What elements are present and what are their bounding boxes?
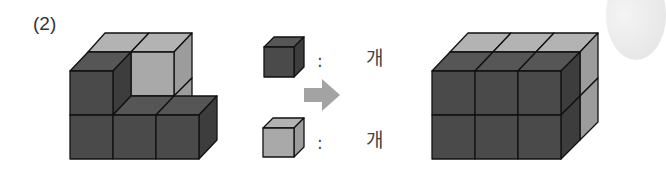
dark-cube-front [518,115,561,159]
light-cube-front [131,52,174,96]
legend-unit-light: 개 [366,125,383,152]
legend-separator: : [317,51,323,71]
initial-figure [70,33,217,159]
dark-cube-front [113,115,156,159]
dark-cube-front [264,47,294,77]
dark-cube-front [70,71,113,115]
dark-cube-front [475,115,518,159]
dark-cube-front [432,71,475,115]
legend-light-cube [263,118,304,157]
legend-unit-dark: 개 [366,43,383,70]
light-cube-front [263,128,294,157]
right-arrow-icon [304,79,340,111]
dark-cube-front [70,115,113,159]
dark-cube-front [518,71,561,115]
target-figure [432,33,598,159]
dark-cube-front [432,115,475,159]
dark-cube-front [156,115,199,159]
dark-cube-front [475,71,518,115]
legend-separator: : [317,133,323,153]
legend-dark-cube [264,37,304,77]
